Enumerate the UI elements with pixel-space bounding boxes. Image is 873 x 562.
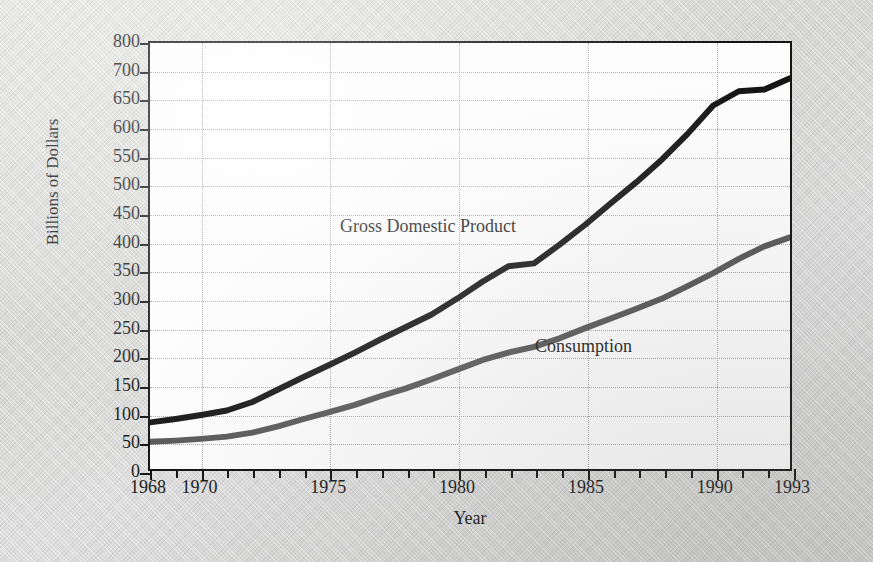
- x-axis-tick-mark: [562, 469, 564, 478]
- y-axis-tick-mark: [140, 416, 150, 418]
- x-axis-tick-mark: [665, 469, 667, 478]
- y-axis-tick-label: 450: [113, 204, 140, 222]
- series-label-consumption: Consumption: [535, 337, 632, 355]
- x-axis-tick-mark: [768, 469, 770, 478]
- y-axis-title: Billions of Dollars: [43, 87, 63, 277]
- y-axis-tick-label: 700: [113, 61, 140, 79]
- x-axis-tick-mark: [253, 469, 255, 478]
- x-axis-tick-label: 1980: [439, 478, 475, 496]
- y-axis-tick-label: 500: [113, 175, 140, 193]
- plot-area: Gross Domestic Product Consumption: [148, 41, 792, 471]
- x-axis-title: Year: [148, 508, 792, 529]
- x-axis-tick-labels: 1968197019751980198519901993: [148, 478, 792, 508]
- y-axis-tick-label: 350: [113, 261, 140, 279]
- x-axis-tick-label: 1990: [697, 478, 733, 496]
- x-axis-tick-mark: [227, 469, 229, 478]
- x-axis-tick-label: 1993: [774, 478, 810, 496]
- plot-inner: Gross Domestic Product Consumption: [150, 43, 790, 469]
- series-line-gross-domestic-product: [150, 78, 790, 422]
- y-axis-tick-mark: [140, 129, 150, 131]
- y-axis-tick-label: 800: [113, 32, 140, 50]
- x-axis-tick-mark: [408, 469, 410, 478]
- y-axis-tick-mark: [140, 387, 150, 389]
- x-axis-tick-mark: [305, 469, 307, 478]
- x-axis-tick-mark: [485, 469, 487, 478]
- y-axis-tick-mark: [140, 301, 150, 303]
- x-axis-tick-mark: [382, 469, 384, 478]
- y-axis-tick-mark: [140, 215, 150, 217]
- x-axis-tick-mark: [742, 469, 744, 478]
- y-axis-tick-mark: [140, 272, 150, 274]
- x-axis-tick-mark: [356, 469, 358, 478]
- x-axis-tick-mark: [691, 469, 693, 478]
- y-axis-tick-mark: [140, 100, 150, 102]
- series-label-gross-domestic-product: Gross Domestic Product: [340, 217, 516, 235]
- y-axis-tick-mark: [140, 186, 150, 188]
- figure-canvas: Billions of Dollars 80070065060055050045…: [0, 0, 873, 562]
- x-axis-tick-label: 1975: [310, 478, 346, 496]
- y-axis-tick-label: 300: [113, 290, 140, 308]
- y-axis-tick-label: 600: [113, 118, 140, 136]
- x-axis-tick-label: 1985: [568, 478, 604, 496]
- y-axis-tick-label: 50: [122, 433, 140, 451]
- y-axis-tick-label: 200: [113, 347, 140, 365]
- y-axis-tick-mark: [140, 158, 150, 160]
- y-axis-tick-mark: [140, 72, 150, 74]
- y-axis-tick-labels: 8007006506005505004504003503002502001501…: [88, 41, 140, 471]
- y-axis-tick-mark: [140, 358, 150, 360]
- y-axis-tick-mark: [140, 444, 150, 446]
- y-axis-tick-label: 550: [113, 147, 140, 165]
- y-axis-tick-mark: [140, 330, 150, 332]
- y-axis-tick-label: 400: [113, 233, 140, 251]
- y-axis-tick-label: 650: [113, 89, 140, 107]
- x-axis-tick-mark: [614, 469, 616, 478]
- x-axis-tick-mark: [639, 469, 641, 478]
- y-axis-tick-label: 100: [113, 405, 140, 423]
- y-axis-tick-mark: [140, 473, 150, 475]
- x-axis-tick-mark: [433, 469, 435, 478]
- x-axis-tick-mark: [511, 469, 513, 478]
- x-axis-tick-label: 1970: [182, 478, 218, 496]
- y-axis-tick-label: 150: [113, 376, 140, 394]
- x-axis-tick-label: 1968: [130, 478, 166, 496]
- x-axis-tick-mark: [536, 469, 538, 478]
- y-axis-tick-label: 250: [113, 319, 140, 337]
- series-lines: [150, 43, 790, 469]
- x-axis-tick-mark: [279, 469, 281, 478]
- x-axis-tick-mark: [176, 469, 178, 478]
- y-axis-tick-mark: [140, 43, 150, 45]
- series-line-consumption: [150, 237, 790, 441]
- y-axis-tick-mark: [140, 244, 150, 246]
